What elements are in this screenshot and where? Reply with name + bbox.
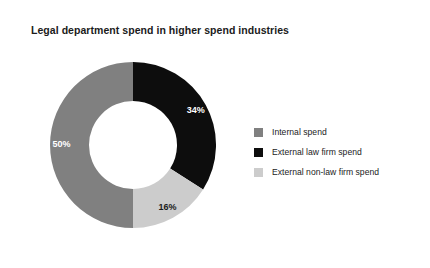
legend-item-internal-spend[interactable]: Internal spend	[254, 122, 414, 142]
chart-card: Legal department spend in higher spend i…	[0, 0, 430, 268]
legend-label-external-law-firm-spend: External law firm spend	[272, 147, 362, 157]
donut-slice-label: 50%	[52, 139, 70, 149]
legend-label-internal-spend: Internal spend	[272, 127, 327, 137]
chart-legend: Internal spend External law firm spend E…	[254, 122, 414, 182]
chart-title: Legal department spend in higher spend i…	[31, 24, 289, 36]
legend-item-external-non-law-firm-spend[interactable]: External non-law firm spend	[254, 162, 414, 182]
legend-swatch-external-law-firm-spend	[254, 148, 263, 157]
legend-swatch-external-non-law-firm-spend	[254, 168, 263, 177]
donut-slice-label: 34%	[187, 105, 205, 115]
donut-svg: 34%16%50%	[50, 62, 216, 228]
donut-slice-label: 16%	[158, 202, 176, 212]
donut-slices	[50, 62, 216, 228]
donut-slice[interactable]	[133, 62, 216, 189]
donut-chart: 34%16%50%	[50, 62, 216, 228]
legend-item-external-law-firm-spend[interactable]: External law firm spend	[254, 142, 414, 162]
legend-swatch-internal-spend	[254, 128, 263, 137]
legend-label-external-non-law-firm-spend: External non-law firm spend	[272, 167, 379, 177]
